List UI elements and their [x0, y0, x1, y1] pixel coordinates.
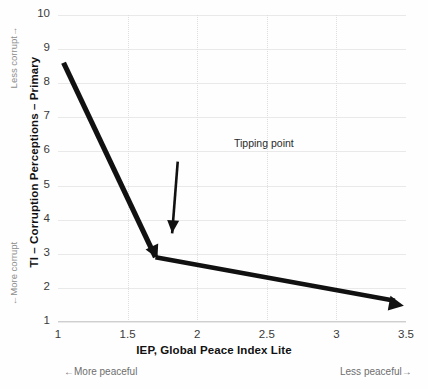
gridline-horizontal: [58, 49, 406, 50]
gridline-horizontal: [58, 15, 406, 16]
x-tick-label: 2.5: [252, 328, 282, 340]
y-axis-title: TI – Corruption Perceptions – Primary: [28, 42, 40, 282]
y-tick-label: 1: [26, 314, 50, 326]
x-axis-note-less-peaceful: Less peaceful→: [340, 366, 412, 377]
x-tick-label: 1.5: [113, 328, 143, 340]
x-tick-label: 2: [182, 328, 212, 340]
gridline-horizontal: [58, 151, 406, 152]
gridline-horizontal: [58, 186, 406, 187]
gridline-vertical: [128, 15, 130, 322]
y-axis-note-less-corrupt: Less corrupt→: [8, 3, 19, 113]
x-axis-line: [58, 321, 406, 322]
gridline-vertical: [267, 15, 269, 322]
x-tick-label: 1: [43, 328, 73, 340]
plot-area: [58, 15, 406, 322]
x-tick-label: 3.5: [391, 328, 421, 340]
chart-canvas: 12345678910 11.522.533.5 TI – Corruption…: [0, 0, 428, 389]
x-tick-label: 3: [321, 328, 351, 340]
x-axis-note-more-peaceful: ←More peaceful: [64, 366, 137, 377]
gridline-horizontal: [58, 83, 406, 84]
gridline-horizontal: [58, 288, 406, 289]
gridline-horizontal: [58, 254, 406, 255]
y-axis-note-more-corrupt: ←More corrupt: [8, 219, 19, 329]
tipping-point-label: Tipping point: [234, 137, 294, 149]
gridline-horizontal: [58, 117, 406, 118]
y-tick-label: 10: [26, 7, 50, 19]
gridline-horizontal: [58, 322, 406, 323]
gridline-vertical: [197, 15, 199, 322]
x-axis-title: IEP, Global Peace Index Lite: [0, 344, 428, 356]
gridline-horizontal: [58, 220, 406, 221]
gridline-vertical: [336, 15, 338, 322]
